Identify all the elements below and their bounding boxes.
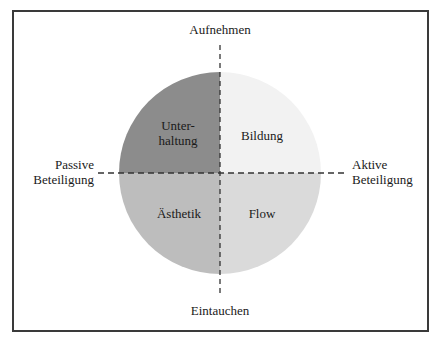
- axis-label-top: Aufnehmen: [189, 22, 250, 37]
- axis-label-left: Passive Beteiligung: [33, 157, 94, 187]
- quadrant-bildung: [220, 72, 321, 173]
- axis-label-right-line1: Aktive: [352, 157, 413, 172]
- axis-label-right-line2: Beteiligung: [352, 172, 413, 187]
- axis-label-right: Aktive Beteiligung: [352, 157, 413, 187]
- axis-label-left-line1: Passive: [33, 157, 94, 172]
- quadrant-label-line1: Unter-: [159, 118, 198, 133]
- quadrant-label-flow: Flow: [249, 206, 276, 221]
- quadrant-label-aesthetik: Ästhetik: [157, 206, 201, 221]
- quadrant-label-line2: haltung: [159, 133, 198, 148]
- quadrant-label-bildung: Bildung: [241, 128, 283, 143]
- quadrant-flow: [220, 173, 321, 274]
- quadrant-label-unterhaltung: Unter- haltung: [159, 118, 198, 148]
- axis-label-bottom: Eintauchen: [191, 303, 249, 318]
- axis-label-left-line2: Beteiligung: [33, 172, 94, 187]
- quadrant-aesthetik: [119, 173, 220, 274]
